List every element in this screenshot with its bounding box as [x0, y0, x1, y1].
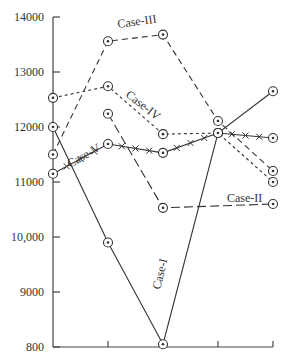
data-point-dot: [272, 181, 275, 184]
data-point-dot: [162, 343, 165, 346]
axes: 1400013000120001100010,0009000800: [11, 10, 273, 354]
data-point-dot: [52, 97, 55, 100]
x-marker: [188, 140, 194, 146]
label-case-iii: Case-III: [116, 12, 157, 31]
x-marker: [201, 135, 207, 141]
data-point-dot: [107, 40, 110, 43]
data-point-dot: [217, 132, 220, 135]
data-point-dot: [272, 137, 275, 140]
data-point-dot: [52, 126, 55, 129]
data-point-dot: [107, 143, 110, 146]
data-point-dot: [162, 133, 165, 136]
y-tick-label: 10,000: [11, 230, 44, 244]
label-case-v: Case-V: [65, 140, 103, 170]
data-point-dot: [162, 152, 165, 155]
y-tick-label: 14000: [14, 10, 44, 24]
data-point-dot: [272, 90, 275, 93]
data-point-dot: [107, 241, 110, 244]
data-point-dot: [162, 207, 165, 210]
data-point-dot: [217, 120, 220, 123]
data-point-dot: [272, 170, 275, 173]
data-point-dot: [272, 203, 275, 206]
series-lines: [53, 35, 273, 345]
x-marker: [174, 145, 180, 151]
y-tick-label: 12000: [14, 120, 44, 134]
y-tick-label: 800: [26, 340, 44, 354]
data-point-dot: [52, 153, 55, 156]
y-tick-label: 9000: [20, 285, 44, 299]
label-case-ii: Case-II: [227, 191, 262, 205]
y-tick-label: 11000: [14, 175, 44, 189]
label-case-i: Case-I: [149, 257, 170, 291]
data-point-dot: [52, 172, 55, 175]
data-point-dot: [107, 113, 110, 116]
line-chart: 1400013000120001100010,0009000800 Case-I…: [0, 0, 289, 362]
data-point-dot: [162, 33, 165, 36]
y-tick-label: 13000: [14, 65, 44, 79]
data-point-dot: [107, 85, 110, 88]
